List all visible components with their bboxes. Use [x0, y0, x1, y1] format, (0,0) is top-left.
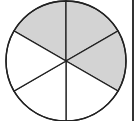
- fraction-circle-diagram: [0, 0, 135, 121]
- right-border-line: [132, 0, 134, 121]
- fraction-circle: [0, 0, 135, 121]
